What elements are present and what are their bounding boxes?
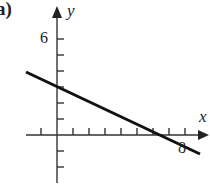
- data-line: [26, 72, 200, 154]
- y-ticks: [57, 39, 64, 167]
- x-tick-label-8: 8: [178, 139, 186, 157]
- y-axis-label: y: [67, 1, 75, 21]
- y-axis-arrow-icon: [52, 6, 62, 18]
- panel-label: a): [0, 0, 12, 20]
- x-axis-arrow-icon: [198, 130, 209, 140]
- chart-plot: [0, 0, 210, 196]
- y-tick-label-6: 6: [40, 29, 48, 47]
- x-ticks: [41, 128, 185, 135]
- x-axis-label: x: [199, 107, 207, 127]
